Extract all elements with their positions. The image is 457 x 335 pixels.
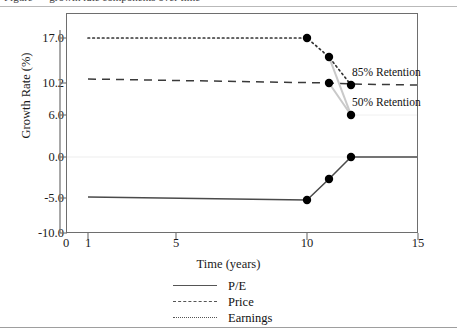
series-pe-line (88, 157, 417, 200)
data-point (303, 34, 311, 42)
x-tick-label: 10 (292, 236, 322, 251)
bottom-divider (0, 327, 457, 328)
data-point-markers (303, 34, 355, 204)
legend-item-pe: P/E (0, 278, 457, 294)
legend-label: Earnings (228, 311, 272, 326)
legend-label: Price (228, 295, 254, 310)
x-tick-label: 5 (161, 236, 191, 251)
data-point (347, 81, 355, 89)
data-point (303, 196, 311, 204)
legend-label: P/E (228, 279, 246, 294)
legend: P/E Price Earnings (0, 278, 457, 326)
series-earnings-line (88, 38, 351, 85)
x-axis-label: Time (years) (0, 257, 457, 272)
legend-item-price: Price (0, 294, 457, 310)
x-tick-label: 1 (73, 236, 103, 251)
x-tick-label: 15 (403, 236, 433, 251)
annotation-85-retention: 85% Retention (352, 66, 421, 78)
legend-swatch-dashed-icon (173, 296, 217, 308)
legend-swatch-dotted-icon (173, 312, 217, 324)
y-axis-ticks (60, 30, 67, 233)
figure-container: Figure — growth rate components over tim… (0, 0, 457, 335)
series-price-line (88, 79, 417, 85)
data-point (325, 175, 333, 183)
legend-item-earnings: Earnings (0, 310, 457, 326)
legend-swatch-solid-icon (173, 280, 217, 292)
data-point (325, 53, 333, 61)
data-point (325, 79, 333, 87)
data-point (347, 153, 355, 161)
data-point (347, 111, 355, 119)
annotation-50-retention: 50% Retention (352, 96, 421, 108)
x-axis-ticks (88, 233, 418, 240)
